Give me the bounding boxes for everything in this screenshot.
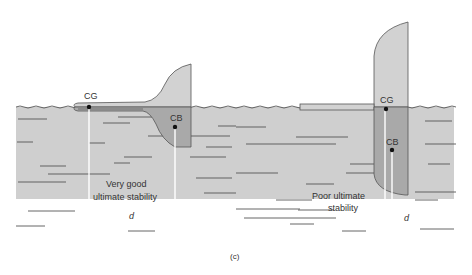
stability-diagram: CG CB Very good ultimate stability d CG … — [0, 0, 472, 275]
water-body-right — [218, 107, 454, 199]
left-stability-label-line1: Very good — [106, 179, 147, 189]
left-stability-label-line2: ultimate stability — [93, 192, 158, 202]
left-cg-dot — [87, 105, 91, 109]
left-cg-label: CG — [84, 91, 98, 101]
right-cb-label: CB — [386, 137, 399, 147]
right-stability-label-line2: stability — [328, 203, 359, 213]
figure-caption: (c) — [230, 252, 240, 261]
right-boat-deck — [300, 104, 374, 110]
left-cb-dot — [173, 125, 177, 129]
left-cb-label: CB — [170, 113, 183, 123]
right-stability-label-line1: Poor ultimate — [312, 191, 365, 201]
right-cg-label: CG — [380, 95, 394, 105]
right-cg-dot — [384, 107, 388, 111]
right-cb-dot — [390, 148, 394, 152]
right-distance-arrow-left — [366, 205, 383, 230]
